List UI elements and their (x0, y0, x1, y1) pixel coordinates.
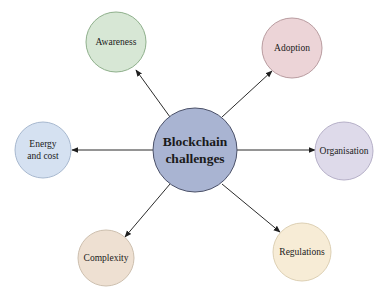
node-adoption: Adoption (262, 18, 322, 78)
organisation-label: Organisation (320, 146, 369, 156)
center-node: Blockchain challenges (153, 108, 237, 192)
regulations-label: Regulations (279, 247, 325, 257)
node-organisation: Organisation (315, 122, 373, 180)
node-energy: Energy and cost (15, 122, 71, 178)
edge-to-complexity (125, 184, 170, 237)
edge-to-regulations (222, 184, 280, 232)
node-regulations: Regulations (273, 223, 331, 281)
edge-to-adoption (222, 71, 272, 117)
blockchain-challenges-diagram: Blockchain challenges Awareness Adoption… (0, 0, 386, 299)
energy-circle (15, 122, 71, 178)
center-label-line-1: Blockchain (163, 134, 228, 149)
node-awareness: Awareness (86, 12, 146, 72)
node-complexity: Complexity (78, 230, 134, 286)
center-circle (153, 108, 237, 192)
edge-to-awareness (136, 70, 170, 117)
awareness-label: Awareness (96, 37, 137, 47)
energy-label-line-2: and cost (27, 151, 59, 161)
complexity-label: Complexity (84, 253, 129, 263)
energy-label-line-1: Energy (29, 139, 57, 149)
center-label-line-2: challenges (165, 151, 224, 166)
adoption-label: Adoption (274, 43, 310, 53)
